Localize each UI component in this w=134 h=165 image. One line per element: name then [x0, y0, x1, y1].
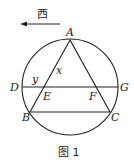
- label-y: y: [31, 73, 39, 86]
- west-arrow: [20, 22, 60, 27]
- label-e: E: [42, 90, 51, 103]
- direction-label: 西: [37, 8, 48, 21]
- label-g: G: [120, 81, 129, 94]
- label-b: B: [21, 111, 30, 124]
- label-x: x: [56, 64, 63, 77]
- figure-caption: 图 1: [58, 146, 80, 159]
- label-d: D: [9, 81, 19, 94]
- geometry-figure: 西 A B C D E F G x y 图 1: [0, 0, 134, 165]
- label-f: F: [88, 90, 97, 103]
- arrowhead-icon: [20, 22, 27, 27]
- label-c: C: [111, 111, 120, 124]
- triangle-abc: [30, 40, 110, 112]
- label-a: A: [65, 26, 74, 39]
